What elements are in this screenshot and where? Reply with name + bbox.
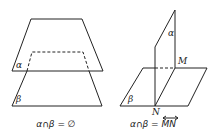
plane-alpha-left <box>12 19 103 71</box>
beta-label-left: β <box>15 94 21 104</box>
beta-label-right: β <box>127 94 133 104</box>
planes-diagram: α β α∩β = ∅ α M β N α∩β = MN <box>0 0 216 138</box>
intersecting-planes-figure: α M β N α∩β = MN <box>120 10 207 129</box>
point-m-label: M <box>177 56 188 66</box>
equation-right-line: MN <box>162 119 177 129</box>
alpha-label-right: α <box>168 28 174 38</box>
plane-beta-left <box>12 52 102 106</box>
equation-right-prefix: α∩β = <box>130 119 162 129</box>
parallel-planes-figure: α β α∩β = ∅ <box>12 19 103 129</box>
equation-left: α∩β = ∅ <box>36 119 75 129</box>
plane-alpha-right <box>155 10 175 106</box>
point-n-label: N <box>151 107 161 117</box>
intersection-line-mn <box>155 68 175 106</box>
equation-right: α∩β = MN <box>130 119 176 129</box>
alpha-label-left: α <box>16 60 22 70</box>
